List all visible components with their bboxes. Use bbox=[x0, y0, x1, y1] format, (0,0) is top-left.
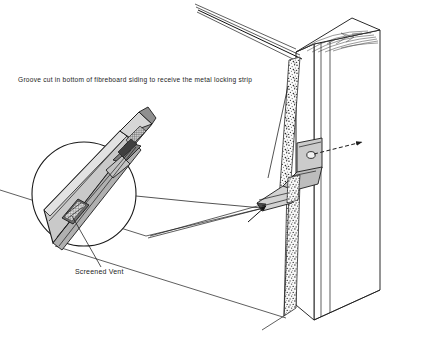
siding-groove-engagement bbox=[287, 175, 300, 203]
caption-main: Groove cut in bottom of fibreboard sidin… bbox=[18, 76, 252, 84]
technical-diagram-figure: Groove cut in bottom of fibreboard sidin… bbox=[0, 0, 427, 348]
locking-strip-nail-hole bbox=[307, 152, 315, 159]
diagram-canvas: Groove cut in bottom of fibreboard sidin… bbox=[0, 0, 427, 348]
hook-engagement-arrow bbox=[248, 206, 266, 222]
post-front-face bbox=[314, 30, 380, 320]
label-screened-vent: Screened Vent bbox=[75, 268, 124, 275]
